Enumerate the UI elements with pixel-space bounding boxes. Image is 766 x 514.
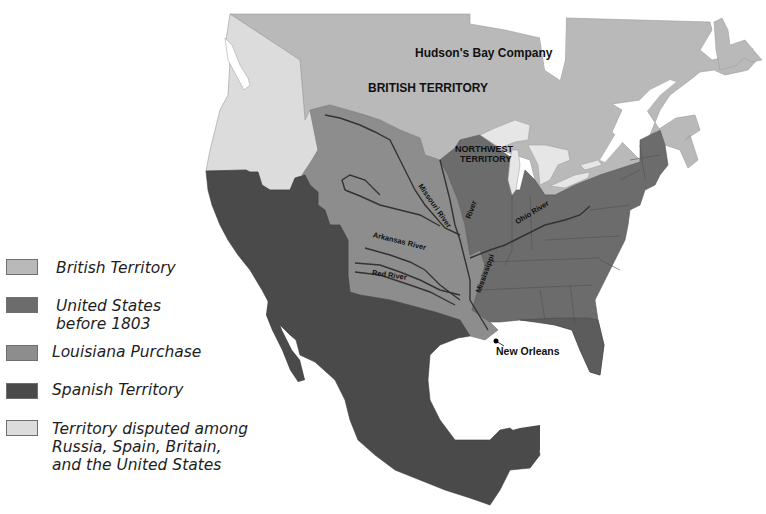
legend-label-spanish-territory: Spanish Territory [52, 381, 262, 399]
legend-item-united-states: United States before 1803 [6, 294, 38, 313]
legend-item-disputed-territory: Territory disputed among Russia, Spain, … [6, 417, 38, 436]
legend-label-disputed-territory: Territory disputed among Russia, Spain, … [52, 420, 252, 474]
legend-label-british-territory: British Territory [56, 259, 266, 277]
label-british-territory: BRITISH TERRITORY [368, 81, 488, 95]
swatch-disputed-territory [6, 420, 38, 436]
swatch-united-states [6, 297, 38, 313]
swatch-british-territory [6, 259, 38, 275]
swatch-spanish-territory [6, 383, 38, 399]
label-northwest-territory-2: TERRITORY [460, 154, 512, 164]
swatch-louisiana-purchase [6, 345, 38, 361]
legend-item-british-territory: British Territory [6, 256, 38, 275]
legend-label-united-states: United States before 1803 [56, 297, 206, 333]
legend-label-louisiana-purchase: Louisiana Purchase [52, 343, 262, 361]
legend-item-louisiana-purchase: Louisiana Purchase [6, 342, 38, 361]
label-northwest-territory-1: NORTHWEST [455, 144, 513, 154]
label-new-orleans: New Orleans [496, 345, 560, 357]
legend-item-spanish-territory: Spanish Territory [6, 380, 38, 399]
label-hudsons-bay-company: Hudson's Bay Company [415, 46, 553, 60]
